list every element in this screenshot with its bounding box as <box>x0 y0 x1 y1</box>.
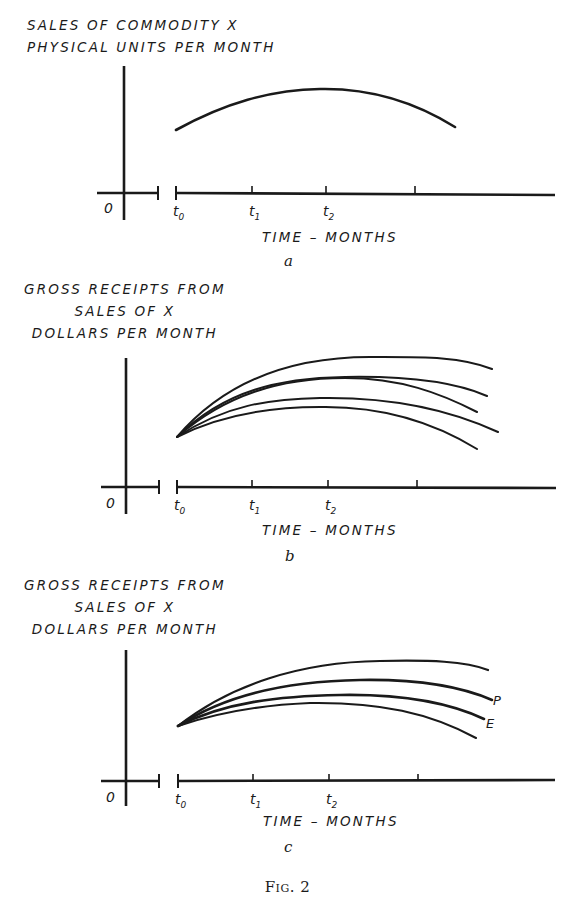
tick-label-t2: t2 <box>326 791 338 810</box>
figure-page: SALES OF COMMODITY X PHYSICAL UNITS PER … <box>0 0 575 909</box>
origin-label: 0 <box>106 789 115 805</box>
curve-label-p: P <box>493 693 501 708</box>
x-axis <box>178 780 555 781</box>
tick-label-t1: t1 <box>250 791 261 810</box>
curve-label-e: E <box>486 716 495 731</box>
curves <box>178 661 492 738</box>
figure-caption: Fig. 2 <box>0 878 575 896</box>
curve-1 <box>178 661 488 726</box>
panel-letter: c <box>284 838 293 856</box>
tick-labels: t0t1t2 <box>175 791 338 810</box>
tick-label-t0: t0 <box>175 791 187 810</box>
panel-c-chart: 0 t0t1t2 PE TIME – MONTHS c <box>0 0 575 909</box>
x-axis-label: TIME – MONTHS <box>263 813 399 829</box>
